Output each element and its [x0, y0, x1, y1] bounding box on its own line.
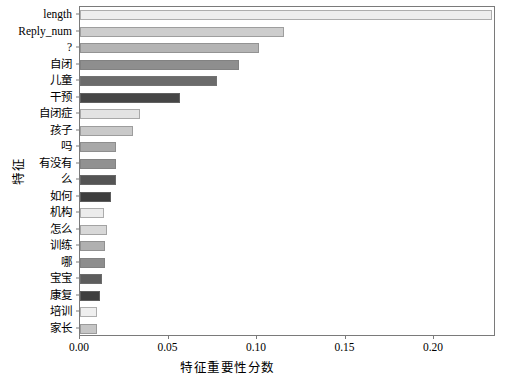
x-axis-tick-label: 0.20 — [423, 341, 443, 354]
bar-row — [80, 208, 494, 218]
bar-row — [80, 324, 494, 334]
bar-row — [80, 76, 494, 86]
bar-row — [80, 291, 494, 301]
bar-row — [80, 10, 494, 20]
bar — [80, 10, 492, 20]
y-axis-tick-label: ? — [67, 41, 72, 53]
bar-row — [80, 126, 494, 136]
bar-row — [80, 274, 494, 284]
bar — [80, 76, 217, 86]
y-axis-tick-label: 家长 — [50, 322, 72, 334]
bar-row — [80, 175, 494, 185]
y-axis-tick-label: 儿童 — [50, 74, 72, 86]
bar-row — [80, 109, 494, 119]
bar — [80, 208, 104, 218]
bar-row — [80, 159, 494, 169]
bar — [80, 175, 116, 185]
x-axis-tick-labels: 0.000.050.100.150.20 — [0, 336, 519, 358]
bar — [80, 192, 111, 202]
y-axis-title: 特征 — [8, 158, 27, 185]
bar — [80, 241, 105, 251]
bar-row — [80, 93, 494, 103]
x-axis-tick-mark — [168, 336, 169, 339]
bar-row — [80, 60, 494, 70]
y-axis-tick-label: length — [43, 8, 72, 20]
bar-row — [80, 192, 494, 202]
x-axis-tick-label: 0.05 — [157, 341, 177, 354]
x-axis-tick-mark — [433, 336, 434, 339]
feature-importance-chart: lengthReply_num?自闭儿童干预自闭症孩子吗有没有么如何机构怎么训练… — [0, 0, 519, 390]
bar-row — [80, 27, 494, 37]
bar — [80, 159, 116, 169]
bar-row — [80, 241, 494, 251]
y-axis-tick-label: 孩子 — [50, 124, 72, 136]
bar — [80, 60, 239, 70]
y-axis-tick-label: 自闭症 — [39, 107, 72, 119]
bar — [80, 307, 97, 317]
x-axis-tick-label: 0.00 — [69, 341, 89, 354]
bar-row — [80, 225, 494, 235]
y-axis-tick-label: 康复 — [50, 289, 72, 301]
bar-series — [80, 7, 494, 335]
y-axis-tick-label: 哪 — [61, 256, 72, 268]
y-axis-tick-label: 有没有 — [39, 157, 72, 169]
bar-row — [80, 258, 494, 268]
bar — [80, 27, 284, 37]
bar — [80, 43, 259, 53]
bar-row — [80, 142, 494, 152]
bar — [80, 324, 97, 334]
bar — [80, 126, 133, 136]
y-axis-tick-label: 干预 — [50, 91, 72, 103]
y-axis-tick-label: 培训 — [50, 305, 72, 317]
y-axis-tick-label: 么 — [61, 173, 72, 185]
x-axis-title: 特征重要性分数 — [0, 357, 519, 376]
bar — [80, 93, 180, 103]
bar — [80, 291, 100, 301]
bar — [80, 225, 107, 235]
y-axis-tick-label: 吗 — [61, 140, 72, 152]
y-axis-tick-label: 自闭 — [50, 58, 72, 70]
x-axis-tick-label: 0.10 — [246, 341, 266, 354]
plot-area — [79, 6, 495, 336]
y-axis-tick-label: 宝宝 — [50, 272, 72, 284]
bar — [80, 274, 102, 284]
bar-row — [80, 43, 494, 53]
x-axis-tick-label: 0.15 — [334, 341, 354, 354]
x-axis-title-text: 特征重要性分数 — [180, 361, 275, 375]
bar — [80, 142, 116, 152]
y-axis-tick-label: 怎么 — [50, 223, 72, 235]
bar — [80, 258, 105, 268]
x-axis-tick-mark — [345, 336, 346, 339]
bar-row — [80, 307, 494, 317]
bar — [80, 109, 140, 119]
y-axis-tick-label: 机构 — [50, 206, 72, 218]
y-axis-tick-label: 如何 — [50, 190, 72, 202]
x-axis-tick-mark — [79, 336, 80, 339]
y-axis-tick-label: 训练 — [50, 239, 72, 251]
y-axis-tick-label: Reply_num — [18, 25, 72, 37]
x-axis-tick-mark — [256, 336, 257, 339]
